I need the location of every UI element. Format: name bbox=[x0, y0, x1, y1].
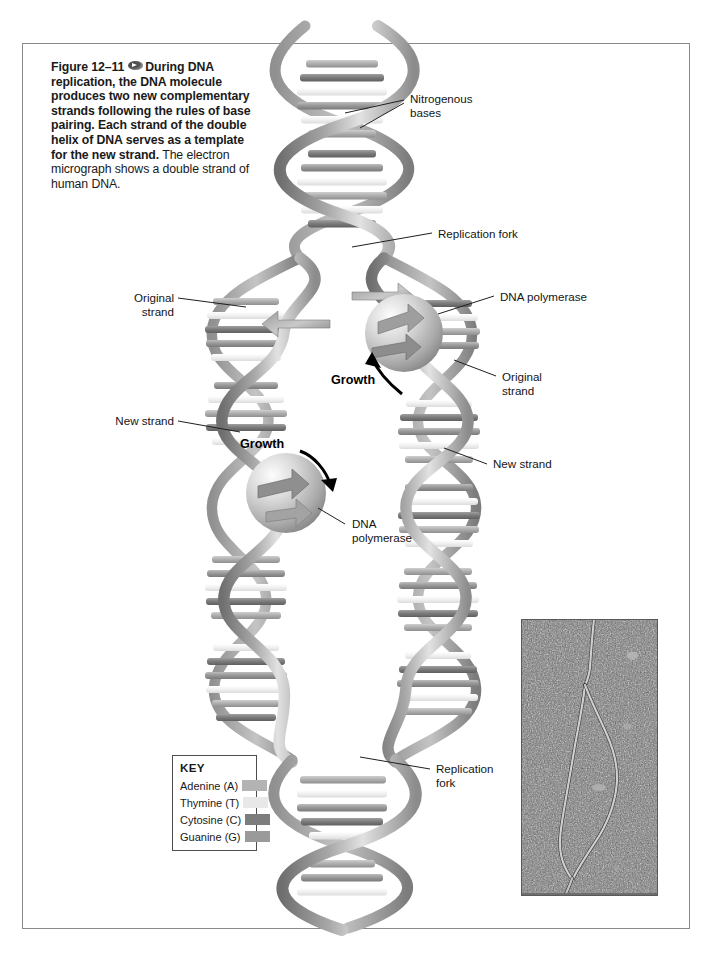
caption-body-bold: During DNA replication, the DNA molecule… bbox=[51, 60, 250, 162]
label-growth-lower: Growth bbox=[240, 437, 284, 451]
key-legend: KEY Adenine (A) Thymine (T) Cytosine (C)… bbox=[172, 755, 257, 851]
micrograph-image bbox=[522, 620, 657, 893]
key-title: KEY bbox=[180, 761, 256, 774]
label-replication-fork-bottom: Replication fork bbox=[436, 762, 493, 789]
label-original-strand-right: Original strand bbox=[502, 370, 542, 397]
figure-caption: Figure 12–11During DNA replication, the … bbox=[51, 60, 263, 191]
label-growth-upper: Growth bbox=[331, 373, 375, 387]
key-swatch-adenine bbox=[242, 780, 267, 791]
label-nitrogenous-bases: Nitrogenous bases bbox=[410, 92, 473, 119]
figure-page: Figure 12–11During DNA replication, the … bbox=[0, 0, 714, 973]
key-label-guanine: Guanine (G) bbox=[180, 831, 241, 843]
key-label-cytosine: Cytosine (C) bbox=[180, 814, 241, 826]
key-row-adenine: Adenine (A) bbox=[180, 777, 256, 794]
label-original-strand-left: Original strand bbox=[88, 291, 174, 318]
key-row-cytosine: Cytosine (C) bbox=[180, 811, 256, 828]
key-swatch-cytosine bbox=[245, 814, 270, 825]
label-dna-polymerase-left: DNA polymerase bbox=[352, 517, 412, 544]
key-swatch-guanine bbox=[245, 831, 270, 842]
key-swatch-thymine bbox=[243, 797, 268, 808]
figure-number: Figure 12–11 bbox=[51, 60, 124, 74]
label-dna-polymerase-right: DNA polymerase bbox=[500, 290, 587, 304]
key-row-thymine: Thymine (T) bbox=[180, 794, 256, 811]
label-new-strand-left: New strand bbox=[88, 414, 174, 428]
label-new-strand-right: New strand bbox=[493, 457, 552, 471]
electron-micrograph bbox=[521, 619, 658, 896]
media-oval-icon bbox=[128, 61, 143, 70]
label-replication-fork-top: Replication fork bbox=[438, 227, 518, 241]
key-label-thymine: Thymine (T) bbox=[180, 797, 239, 809]
key-row-guanine: Guanine (G) bbox=[180, 828, 256, 845]
key-label-adenine: Adenine (A) bbox=[180, 780, 238, 792]
